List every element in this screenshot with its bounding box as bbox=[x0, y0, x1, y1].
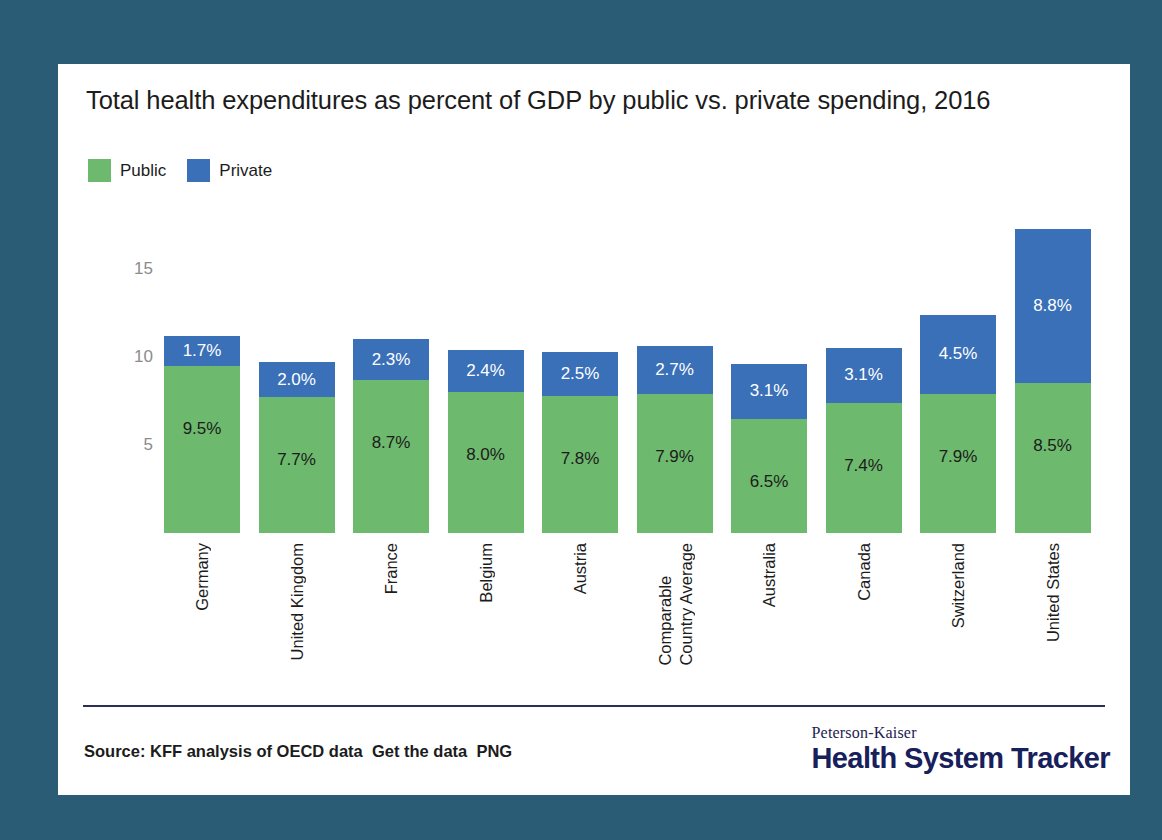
bar-column[interactable]: 2.0%7.7%United Kingdom bbox=[259, 64, 335, 795]
bar-value-label-private: 2.7% bbox=[637, 360, 713, 380]
x-axis-category-label: ComparableCountry Average bbox=[654, 543, 695, 666]
brand-logo: Peterson-Kaiser Health System Tracker bbox=[811, 724, 1110, 774]
x-axis-category-line: United States bbox=[1043, 543, 1063, 642]
x-axis-category-line: Austria bbox=[570, 543, 590, 594]
bar-value-label-public: 6.5% bbox=[731, 472, 807, 492]
bar-segment-public[interactable]: 8.0% bbox=[448, 392, 524, 533]
bar-segment-public[interactable]: 7.4% bbox=[826, 403, 902, 533]
bar-value-label-private: 2.4% bbox=[448, 361, 524, 381]
bar-value-label-public: 8.5% bbox=[1015, 436, 1091, 456]
x-axis-category-line: France bbox=[381, 543, 401, 594]
bar-value-label-private: 2.5% bbox=[542, 364, 618, 384]
bar-segment-private[interactable]: 2.7% bbox=[637, 346, 713, 394]
bar-segment-private[interactable]: 1.7% bbox=[164, 336, 240, 366]
bar-value-label-public: 7.4% bbox=[826, 456, 902, 476]
x-axis-category-label: United Kingdom bbox=[287, 543, 307, 660]
chart-card: Total health expenditures as percent of … bbox=[58, 64, 1130, 795]
bar-column[interactable]: 4.5%7.9%Switzerland bbox=[920, 64, 996, 795]
y-axis-tick-label: 15 bbox=[103, 259, 153, 279]
bar-value-label-private: 1.7% bbox=[164, 341, 240, 361]
bar-value-label-public: 7.8% bbox=[542, 449, 618, 469]
bar-column[interactable]: 2.4%8.0%Belgium bbox=[448, 64, 524, 795]
x-axis-category-label: United States bbox=[1043, 543, 1063, 642]
bars-group: 1.7%9.5%Germany2.0%7.7%United Kingdom2.3… bbox=[161, 64, 1108, 795]
x-axis-category-label: Australia bbox=[759, 543, 779, 607]
x-axis-category-line: United Kingdom bbox=[287, 543, 307, 660]
bar-segment-private[interactable]: 3.1% bbox=[826, 348, 902, 403]
bar-value-label-public: 7.9% bbox=[920, 447, 996, 467]
y-axis-tick-label: 5 bbox=[103, 435, 153, 455]
bar-segment-public[interactable]: 7.8% bbox=[542, 396, 618, 533]
x-axis-category-line: Switzerland bbox=[948, 543, 968, 628]
bar-segment-public[interactable]: 7.9% bbox=[920, 394, 996, 533]
x-axis-category-label: Germany bbox=[192, 543, 212, 611]
x-axis-category-line: Belgium bbox=[476, 543, 496, 603]
bar-value-label-private: 8.8% bbox=[1015, 296, 1091, 316]
bar-value-label-public: 7.9% bbox=[637, 447, 713, 467]
bar-value-label-public: 8.7% bbox=[353, 433, 429, 453]
brand-name-main: Health System Tracker bbox=[811, 743, 1110, 774]
bar-value-label-public: 8.0% bbox=[448, 445, 524, 465]
bar-segment-private[interactable]: 3.1% bbox=[731, 364, 807, 419]
x-axis-category-line: Canada bbox=[854, 543, 874, 601]
y-axis-tick-label: 10 bbox=[103, 347, 153, 367]
footer-divider bbox=[83, 705, 1105, 707]
bar-segment-public[interactable]: 8.5% bbox=[1015, 383, 1091, 533]
bar-value-label-private: 2.3% bbox=[353, 350, 429, 370]
bar-segment-private[interactable]: 2.3% bbox=[353, 339, 429, 379]
source-note: Source: KFF analysis of OECD data Get th… bbox=[84, 742, 512, 761]
x-axis-category-label: Belgium bbox=[476, 543, 496, 603]
bar-column[interactable]: 3.1%7.4%Canada bbox=[826, 64, 902, 795]
bar-segment-private[interactable]: 8.8% bbox=[1015, 229, 1091, 384]
x-axis-category-label: Switzerland bbox=[948, 543, 968, 628]
x-axis-category-line: Australia bbox=[759, 543, 779, 607]
bar-segment-private[interactable]: 2.0% bbox=[259, 362, 335, 397]
bar-value-label-private: 2.0% bbox=[259, 370, 335, 390]
bar-value-label-public: 7.7% bbox=[259, 450, 335, 470]
bar-segment-private[interactable]: 2.4% bbox=[448, 350, 524, 392]
bar-segment-public[interactable]: 6.5% bbox=[731, 419, 807, 533]
x-axis-category-label: France bbox=[381, 543, 401, 594]
bar-value-label-private: 3.1% bbox=[826, 365, 902, 385]
bar-segment-public[interactable]: 8.7% bbox=[353, 380, 429, 533]
bar-segment-public[interactable]: 7.9% bbox=[637, 394, 713, 533]
bar-column[interactable]: 8.8%8.5%United States bbox=[1015, 64, 1091, 795]
brand-name-top: Peterson-Kaiser bbox=[811, 724, 1110, 742]
bar-segment-private[interactable]: 2.5% bbox=[542, 352, 618, 396]
bar-column[interactable]: 1.7%9.5%Germany bbox=[164, 64, 240, 795]
bar-segment-private[interactable]: 4.5% bbox=[920, 315, 996, 394]
x-axis-category-line: Germany bbox=[192, 543, 212, 611]
bar-column[interactable]: 2.3%8.7%France bbox=[353, 64, 429, 795]
bar-value-label-private: 4.5% bbox=[920, 344, 996, 364]
x-axis-category-label: Austria bbox=[570, 543, 590, 594]
x-axis-category-label: Canada bbox=[854, 543, 874, 601]
bar-column[interactable]: 2.5%7.8%Austria bbox=[542, 64, 618, 795]
bar-column[interactable]: 2.7%7.9%ComparableCountry Average bbox=[637, 64, 713, 795]
bar-value-label-private: 3.1% bbox=[731, 381, 807, 401]
bar-column[interactable]: 3.1%6.5%Australia bbox=[731, 64, 807, 795]
bar-segment-public[interactable]: 9.5% bbox=[164, 366, 240, 533]
plot-area: 51015 1.7%9.5%Germany2.0%7.7%United King… bbox=[58, 64, 1130, 795]
bar-value-label-public: 9.5% bbox=[164, 419, 240, 439]
x-axis-category-line: Country Average bbox=[675, 543, 695, 666]
bar-segment-public[interactable]: 7.7% bbox=[259, 397, 335, 533]
x-axis-category-line: Comparable bbox=[654, 543, 674, 666]
